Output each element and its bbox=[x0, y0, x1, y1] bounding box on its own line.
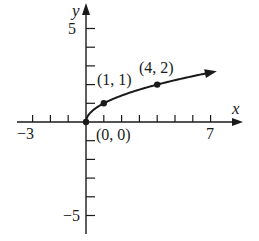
curve-arrowhead-icon bbox=[204, 69, 217, 78]
data-point bbox=[154, 81, 160, 87]
y-axis-label: y bbox=[70, 1, 80, 20]
point-label-4-2: (4, 2) bbox=[139, 59, 174, 77]
x-tick-label-7: 7 bbox=[206, 125, 214, 142]
y-tick-label-5: 5 bbox=[68, 20, 76, 37]
data-point bbox=[101, 100, 107, 106]
point-label-origin: (0, 0) bbox=[96, 126, 131, 144]
x-tick-label-neg3: −3 bbox=[17, 125, 34, 142]
sqrt-graph: x y 5 −5 −3 7 (0, 0) (1, 1) (4, 2) bbox=[0, 0, 259, 241]
y-axis-arrowhead-icon bbox=[82, 3, 90, 15]
point-label-1-1: (1, 1) bbox=[97, 71, 132, 89]
x-axis-label: x bbox=[231, 99, 240, 118]
y-tick-label-neg5: −5 bbox=[63, 207, 80, 224]
x-axis-arrowhead-icon bbox=[232, 118, 243, 126]
data-point bbox=[83, 119, 89, 125]
